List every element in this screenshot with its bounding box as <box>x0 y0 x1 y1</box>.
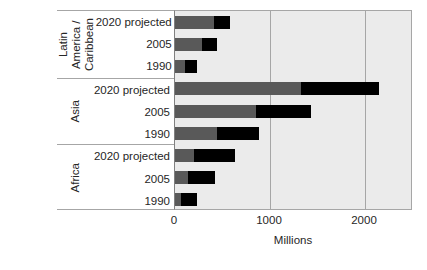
category-label-table: Latin America / Caribbean 2020 projected… <box>57 10 174 210</box>
group-name-label: Latin America / Caribbean <box>57 18 96 71</box>
group-rows-latin-america: 2020 projected 2005 1990 <box>96 11 176 78</box>
x-tick-label-0: 0 <box>171 214 177 226</box>
row-label-africa-2005: 2005 <box>94 168 170 190</box>
bar-segment-non-slum <box>175 16 214 29</box>
bar-latin-america-caribbean-2020-projected <box>175 16 230 29</box>
x-axis-ticks: 010002000 <box>174 214 412 232</box>
bar-segment-non-slum <box>175 105 256 118</box>
row-label-asia-2020: 2020 projected <box>94 79 170 101</box>
bars-layer <box>175 11 411 209</box>
row-label-lac-1990: 1990 <box>96 55 172 77</box>
bar-segment-non-slum <box>175 60 185 73</box>
x-tick-label-1000: 1000 <box>256 214 282 226</box>
row-label-lac-2020: 2020 projected <box>96 11 172 33</box>
group-name-latin-america: Latin America / Caribbean <box>57 11 96 78</box>
row-label-asia-1990: 1990 <box>94 123 170 145</box>
x-tick-label-2000: 2000 <box>351 214 377 226</box>
bar-segment-non-slum <box>175 127 217 140</box>
category-group-africa: Africa 2020 projected 2005 1990 <box>57 144 174 211</box>
bar-africa-2020-projected <box>175 149 235 162</box>
bar-segment-slum-population <box>217 127 259 140</box>
category-group-latin-america: Latin America / Caribbean 2020 projected… <box>57 11 174 78</box>
row-label-africa-2020: 2020 projected <box>94 145 170 167</box>
stacked-bar-chart: Latin America / Caribbean 2020 projected… <box>0 0 427 270</box>
bar-segment-slum-population <box>301 82 379 95</box>
bar-segment-non-slum <box>175 82 301 95</box>
row-label-asia-2005: 2005 <box>94 101 170 123</box>
bar-africa-2005 <box>175 171 215 184</box>
row-label-africa-1990: 1990 <box>94 190 170 212</box>
bar-asia-1990 <box>175 127 259 140</box>
bar-latin-america-caribbean-1990 <box>175 60 197 73</box>
bar-segment-slum-population <box>185 60 196 73</box>
bar-segment-slum-population <box>202 38 217 51</box>
bar-segment-slum-population <box>256 105 311 118</box>
bar-segment-non-slum <box>175 149 194 162</box>
group-rows-asia: 2020 projected 2005 1990 <box>94 79 174 145</box>
x-axis-title: Millions <box>174 234 412 246</box>
group-name-asia: Asia <box>57 79 94 145</box>
group-name-label: Asia <box>69 100 82 122</box>
group-name-label: Africa <box>69 163 82 192</box>
bar-segment-slum-population <box>181 193 197 206</box>
row-label-lac-2005: 2005 <box>96 33 172 55</box>
bar-asia-2020-projected <box>175 82 379 95</box>
bar-africa-1990 <box>175 193 197 206</box>
bar-segment-non-slum <box>175 38 202 51</box>
bar-latin-america-caribbean-2005 <box>175 38 217 51</box>
bar-asia-2005 <box>175 105 311 118</box>
bar-segment-slum-population <box>214 16 230 29</box>
group-name-africa: Africa <box>57 145 94 211</box>
plot-area: Slum population <box>174 10 412 210</box>
category-group-asia: Asia 2020 projected 2005 1990 <box>57 78 174 145</box>
group-rows-africa: 2020 projected 2005 1990 <box>94 145 174 211</box>
bar-segment-slum-population <box>188 171 215 184</box>
bar-segment-non-slum <box>175 171 188 184</box>
bar-segment-slum-population <box>194 149 235 162</box>
